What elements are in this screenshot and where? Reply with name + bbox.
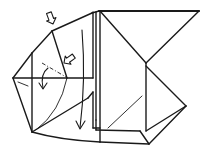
push-arrow-top [44, 11, 58, 26]
top-edge [92, 11, 199, 13]
middle-panel [93, 11, 149, 144]
diagram-canvas [0, 0, 210, 153]
right-flap [100, 11, 199, 144]
origami-diagram [0, 0, 210, 153]
fold-down-arrow-right [76, 30, 85, 129]
left-body [13, 13, 100, 142]
